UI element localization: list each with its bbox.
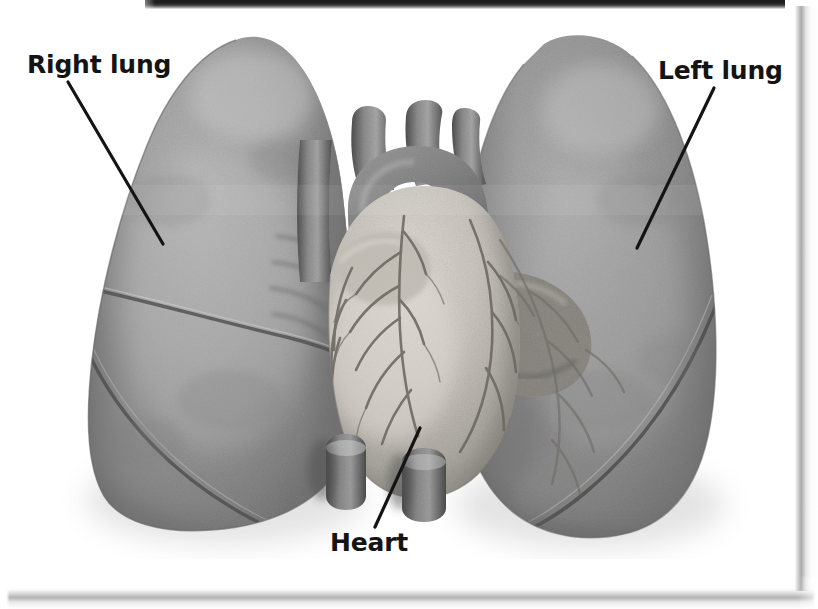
lungs-and-heart-illustration bbox=[0, 0, 818, 609]
label-right-lung: Right lung bbox=[27, 52, 171, 77]
scan-right-edge bbox=[788, 6, 818, 591]
scan-bottom-edge bbox=[8, 577, 814, 609]
scan-top-bar bbox=[145, 0, 785, 9]
label-heart: Heart bbox=[330, 530, 408, 555]
figure-page: Right lung Left lung Heart bbox=[0, 0, 818, 609]
label-left-lung: Left lung bbox=[658, 58, 783, 83]
